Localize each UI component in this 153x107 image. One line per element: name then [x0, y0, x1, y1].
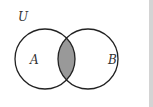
set-a-label: A — [29, 53, 39, 67]
venn-diagram: U A B — [0, 0, 153, 107]
right-edge-divider — [149, 0, 153, 107]
set-b-label: B — [107, 53, 117, 67]
universe-label: U — [18, 10, 29, 24]
venn-svg: U A B — [0, 0, 153, 107]
